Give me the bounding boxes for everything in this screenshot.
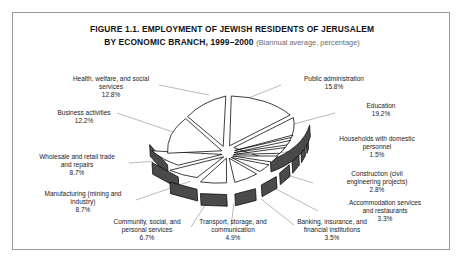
callout-transport-storage-value: 4.9%: [183, 234, 283, 242]
callout-business-activities-value: 12.2%: [37, 117, 131, 125]
callout-households-domestic: Households with domestic personnel 1.5%: [321, 135, 433, 160]
callout-education: Education 19.2%: [339, 102, 423, 118]
callout-accommodation-restaurants-line2: and restaurants: [333, 207, 437, 215]
callout-accommodation-restaurants-value: 3.3%: [333, 215, 437, 223]
callout-households-domestic-value: 1.5%: [321, 151, 433, 159]
figure-frame: FIGURE 1.1. EMPLOYMENT OF JEWISH RESIDEN…: [12, 12, 450, 250]
callout-health-welfare-line1: Health, welfare, and social: [55, 75, 167, 83]
callout-manufacturing-line2: industry): [29, 198, 137, 206]
callout-manufacturing: Manufacturing (mining and industry) 8.7%: [29, 190, 137, 215]
callout-construction-value: 2.8%: [325, 186, 429, 194]
callout-wholesale-retail: Wholesale and retail trade and repairs 8…: [21, 153, 133, 178]
callout-wholesale-retail-line2: and repairs: [21, 161, 133, 169]
callout-health-welfare-value: 12.8%: [55, 91, 167, 99]
callout-public-administration-line1: Public administration: [279, 75, 389, 83]
callout-education-value: 19.2%: [339, 110, 423, 118]
callout-business-activities-line1: Business activities: [37, 109, 131, 117]
callout-accommodation-restaurants: Accommodation services and restaurants 3…: [333, 199, 437, 224]
callout-households-domestic-line2: personnel: [321, 143, 433, 151]
callout-community-services-line1: Community, social, and: [97, 218, 197, 226]
callout-public-administration-value: 15.8%: [279, 83, 389, 91]
slice-side-wholesale: [170, 182, 198, 201]
pie-chart-plot-area: Health, welfare, and social services 12.…: [13, 13, 451, 251]
callout-wholesale-retail-value: 8.7%: [21, 169, 133, 177]
callout-construction-line1: Construction (civil: [325, 170, 429, 178]
callout-health-welfare: Health, welfare, and social services 12.…: [55, 75, 167, 100]
callout-accommodation-restaurants-line1: Accommodation services: [333, 199, 437, 207]
slice-side-transport: [261, 177, 277, 197]
callout-households-domestic-line1: Households with domestic: [321, 135, 433, 143]
callout-business-activities: Business activities 12.2%: [37, 109, 131, 125]
callout-manufacturing-line1: Manufacturing (mining and: [29, 190, 137, 198]
callout-transport-storage: Transport, storage, and communication 4.…: [183, 218, 283, 243]
callout-banking-insurance-value: 3.5%: [285, 234, 379, 242]
callout-education-line1: Education: [339, 102, 423, 110]
callout-construction-line2: engineering projects): [325, 178, 429, 186]
callout-health-welfare-line2: services: [55, 83, 167, 91]
callout-community-services-line2: personal services: [97, 226, 197, 234]
callout-public-administration: Public administration 15.8%: [279, 75, 389, 91]
callout-banking-insurance-line2: financial institutions: [285, 226, 379, 234]
callout-community-services: Community, social, and personal services…: [97, 218, 197, 243]
callout-transport-storage-line2: communication: [183, 226, 283, 234]
callout-community-services-value: 6.7%: [97, 234, 197, 242]
callout-wholesale-retail-line1: Wholesale and retail trade: [21, 153, 133, 161]
slice-side-community: [235, 189, 256, 206]
leader-line-accommodation: [276, 189, 318, 211]
leader-line-public: [246, 85, 281, 99]
slice-side-manufacturing: [200, 194, 227, 207]
callout-transport-storage-line1: Transport, storage, and: [183, 218, 283, 226]
callout-manufacturing-value: 8.7%: [29, 206, 137, 214]
callout-construction: Construction (civil engineering projects…: [325, 170, 429, 195]
